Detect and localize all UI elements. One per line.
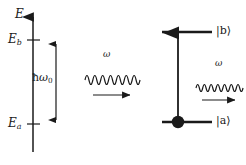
omega-zero-sub: 0	[48, 76, 53, 85]
outgoing-photon-wave-path	[196, 85, 243, 92]
energy-level-diagram: E Eb Ea ħω0 ω ω |b⟩ |a⟩	[0, 0, 246, 165]
tick-label-eb-sub: b	[17, 38, 22, 47]
tick-label-ea: Ea	[8, 117, 21, 131]
upper-level-ket-label: |b⟩	[216, 25, 231, 36]
lower-level-ket-label: |a⟩	[216, 115, 231, 126]
energy-axis-label: E	[15, 8, 24, 20]
tick-label-eb: Eb	[8, 33, 22, 47]
omega-glyph: ω	[39, 71, 48, 84]
tick-label-ea-base: E	[8, 116, 17, 130]
outgoing-wave-label: ω	[215, 59, 222, 68]
incoming-photon-wave-path	[85, 76, 140, 85]
tick-label-ea-sub: a	[17, 122, 22, 131]
hbar-omega-zero-label: ħω0	[32, 72, 53, 84]
tick-label-eb-base: E	[8, 32, 17, 46]
electron-dot	[172, 116, 184, 128]
incoming-wave-label: ω	[103, 50, 110, 59]
